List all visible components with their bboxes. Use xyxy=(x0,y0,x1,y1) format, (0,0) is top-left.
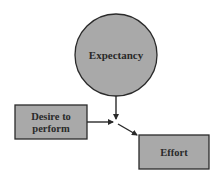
expectancy-label: Expectancy xyxy=(89,49,144,61)
desire-to-perform-node: Desire to perform xyxy=(15,105,87,139)
effort-label: Effort xyxy=(160,147,188,158)
desire-label-line2: perform xyxy=(32,123,70,134)
desire-label-line1: Desire to xyxy=(31,111,71,122)
expectancy-effort-diagram: Expectancy Desire to perform Effort xyxy=(0,0,220,182)
expectancy-node: Expectancy xyxy=(75,14,157,96)
effort-node: Effort xyxy=(139,135,209,169)
arrow-junction-to-effort xyxy=(118,124,137,135)
